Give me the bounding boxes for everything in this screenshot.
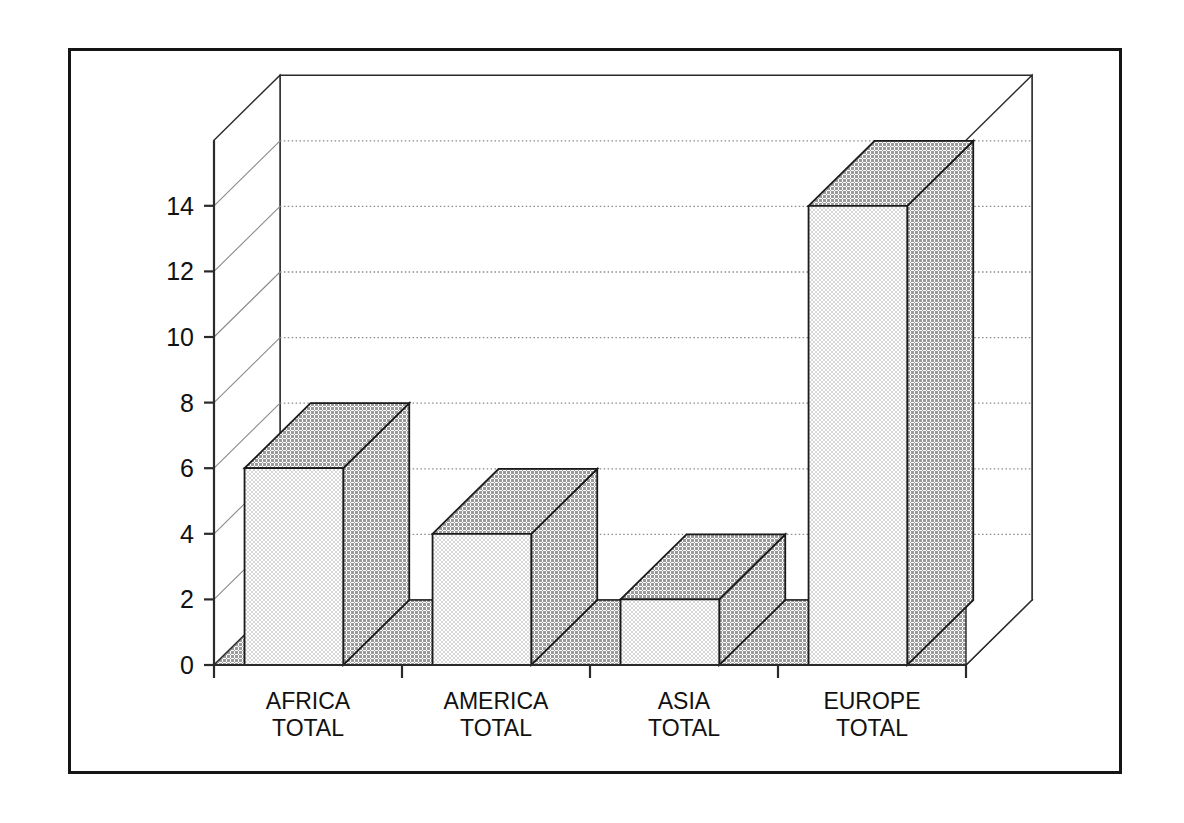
y-tick-label-8: 8	[180, 389, 194, 417]
x-category-label-2-line-0: ASIA	[658, 688, 711, 714]
bar-front-face-1	[433, 534, 532, 665]
bar-front-face-3	[809, 206, 908, 665]
y-tick-label-4: 4	[180, 520, 194, 548]
x-category-label-3-line-1: TOTAL	[836, 715, 908, 741]
bar-front-face-2	[621, 599, 720, 665]
x-category-label-3-line-0: EUROPE	[823, 688, 920, 714]
bar-front-face-0	[245, 468, 344, 665]
chart-page: Adventure, multi-aventure in:	[0, 0, 1184, 823]
x-category-label-0-line-1: TOTAL	[272, 715, 344, 741]
x-category-label-0-line-0: AFRICA	[266, 688, 351, 714]
x-category-label-1-line-1: TOTAL	[460, 715, 532, 741]
x-category-label-1-line-0: AMERICA	[444, 688, 549, 714]
figure-frame: Adventure, multi-aventure in:	[68, 48, 1122, 774]
bar-side-face-3	[907, 141, 973, 665]
right-wall	[966, 75, 1032, 665]
chart-plot-area: 02468101214AFRICATOTALAMERICATOTALASIATO…	[71, 51, 1119, 771]
x-category-label-2-line-1: TOTAL	[648, 715, 720, 741]
y-tick-label-10: 10	[166, 323, 194, 351]
y-tick-label-6: 6	[180, 454, 194, 482]
y-tick-label-12: 12	[166, 257, 194, 285]
y-tick-label-14: 14	[166, 192, 194, 220]
y-tick-label-2: 2	[180, 585, 194, 613]
y-tick-label-0: 0	[180, 651, 194, 679]
bar-3	[809, 141, 974, 665]
